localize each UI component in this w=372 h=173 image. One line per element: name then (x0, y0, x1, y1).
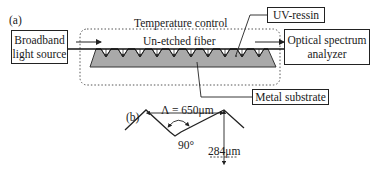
panel-a-label: (a) (9, 14, 22, 27)
optical-spectrum-analyzer-box: Optical spectrum analyzer (284, 29, 370, 65)
period-label: Λ = 650μm (161, 104, 214, 117)
uv-resin-label: UV-ressin (273, 9, 319, 21)
analyzer-line-2: analyzer (285, 47, 369, 61)
depth-label: 284μm (208, 145, 240, 158)
source-line-1: Broadband (12, 33, 67, 47)
angle-arc (169, 120, 188, 126)
temperature-control-label: Temperature control (134, 17, 227, 30)
analyzer-line-1: Optical spectrum (285, 33, 369, 47)
metal-substrate-with-grooves (90, 49, 276, 67)
source-line-2: light source (12, 47, 67, 61)
metal-substrate-label: Metal substrate (255, 91, 326, 103)
panel-b-label: (b) (126, 111, 139, 124)
metal-substrate-label-box: Metal substrate (252, 89, 329, 105)
broadband-light-source-box: Broadband light source (11, 30, 68, 64)
fiber-label: Un-etched fiber (143, 35, 215, 48)
uv-resin-label-box: UV-ressin (267, 7, 325, 23)
angle-label: 90° (178, 139, 194, 152)
